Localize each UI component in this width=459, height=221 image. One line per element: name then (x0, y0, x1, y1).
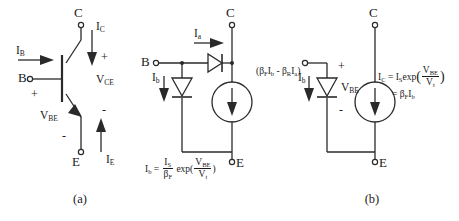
ib-arrowhead-a (40, 55, 54, 65)
base-node-dot-b (180, 61, 184, 65)
base-terminal-b (153, 60, 158, 65)
panel-a-schematic (0, 0, 160, 221)
base-terminal-a (27, 76, 32, 81)
base-terminal-c (302, 60, 307, 65)
vbe-plus-sign-a: + (31, 88, 38, 100)
collector-label-b: C (226, 6, 235, 19)
ie-label-a: IE (106, 154, 114, 166)
ib-arrowhead-c (304, 88, 314, 102)
vbe-label-c: VBE (341, 82, 359, 94)
ie-arrowhead-a (96, 118, 106, 132)
ia-label-b: Ia (194, 28, 201, 40)
base-label-a: B (18, 71, 27, 84)
current-source-expression-b: (βFIb - βRIa) (256, 66, 300, 77)
ib-arrowhead-b (159, 88, 169, 102)
bjt-models-figure: C B E IC IB IE VCE VBE + - + - (a) (0, 0, 459, 221)
ia-arrowhead-b (210, 38, 224, 48)
emitter-terminal-c (372, 159, 377, 164)
collector-label-c: C (369, 6, 378, 19)
collector-node-dot-b (230, 61, 234, 65)
emitter-label-c: E (379, 156, 387, 169)
collector-slope-a (66, 40, 81, 63)
source-arrowhead-c (370, 102, 380, 116)
collector-current-equation-c: IC = ISexp(VBEVt) = βFIb (378, 66, 445, 100)
panel-c-schematic (300, 0, 459, 221)
collector-terminal-a (78, 22, 83, 27)
ic-label-a: IC (96, 21, 105, 33)
ic-arrowhead-a (87, 52, 97, 66)
collector-label-a: C (74, 6, 83, 19)
emitter-arrowhead-a (68, 104, 82, 117)
ib-label-b: Ib (152, 72, 160, 84)
emitter-terminal-b (229, 159, 234, 164)
diode-triangle-c (317, 78, 337, 96)
collector-terminal-c (372, 22, 377, 27)
panel-c-forward-active-model: C E Ib VBE + - IC = ISexp(VBEVt) = βFIb … (300, 0, 459, 221)
emitter-label-b: E (236, 156, 244, 169)
vce-minus-sign-a: - (102, 104, 106, 116)
diode-a-triangle-b (208, 54, 222, 72)
vce-label-a: VCE (96, 74, 114, 86)
vbe-plus-sign-c: + (338, 60, 345, 72)
vbe-minus-sign-a: - (62, 130, 66, 142)
vbe-label-a: VBE (40, 110, 58, 122)
ib-label-c: Ib (298, 72, 306, 84)
caption-a: (a) (50, 192, 110, 207)
panel-b-ebers-moll-model: C B E Ia Ib (βFIb - βRIa) Ib = ISβF exp(… (150, 0, 310, 221)
vce-plus-sign-a: + (101, 51, 108, 63)
source-arrowhead-b (227, 102, 237, 116)
base-label-b: B (141, 55, 150, 68)
panel-a-transistor-symbol: C B E IC IB IE VCE VBE + - + - (a) (0, 0, 160, 221)
diode-b-triangle-b (172, 78, 192, 96)
base-current-equation-b: Ib = ISβF exp(VBEVt) (145, 158, 216, 181)
collector-terminal-b (229, 22, 234, 27)
panel-b-schematic (150, 0, 320, 221)
ib-label-a: IB (16, 45, 25, 57)
vbe-minus-sign-c: - (339, 104, 343, 116)
emitter-label-a: E (72, 155, 80, 168)
